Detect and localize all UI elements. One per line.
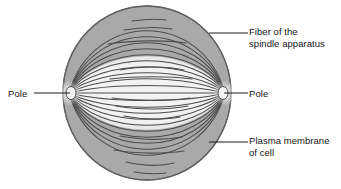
label-membrane-line2: of cell [249,147,329,159]
label-fiber-line1: Fiber of the [249,26,298,37]
label-pole-left: Pole [8,88,27,100]
label-plasma-membrane: Plasma membrane of cell [249,135,329,158]
label-pole-right: Pole [249,88,268,100]
label-membrane-line1: Plasma membrane [249,135,329,146]
label-fiber-line2: spindle apparatus [249,38,325,50]
spindle-apparatus-figure: Fiber of the spindle apparatus Plasma me… [0,0,341,189]
label-fiber-of-spindle-apparatus: Fiber of the spindle apparatus [249,26,325,49]
